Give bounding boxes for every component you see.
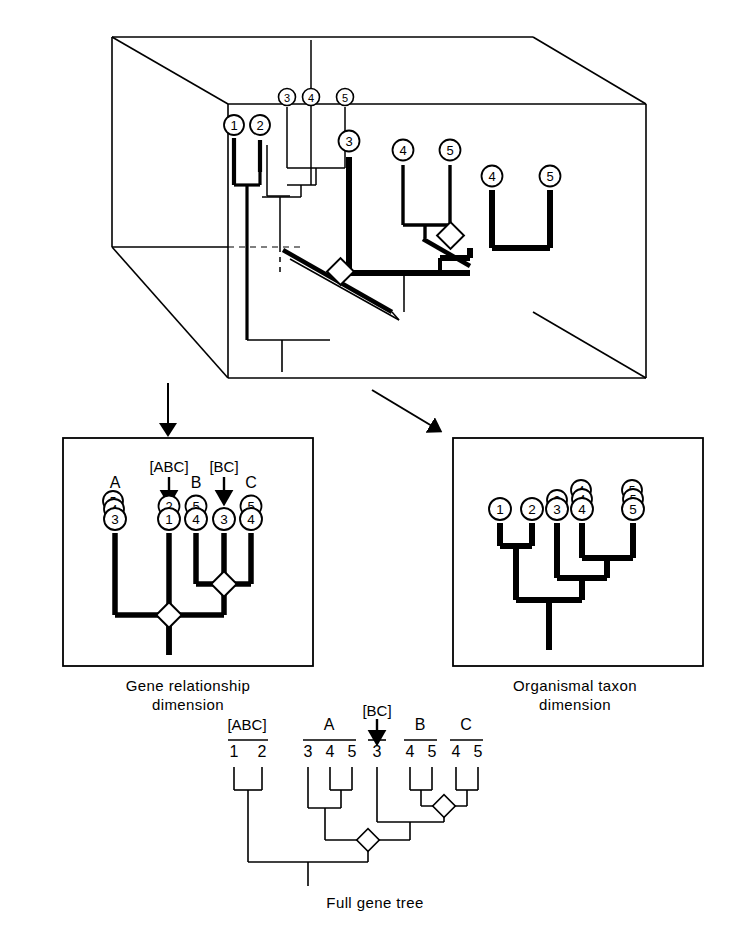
svg-text:4: 4 xyxy=(192,512,200,527)
cube-duplication-connectors xyxy=(283,239,470,320)
left-panel-tip-letter-a: A xyxy=(110,474,121,491)
organismal-taxon-panel-frame xyxy=(453,438,703,666)
cube-tip-badge-4-thick: 4 xyxy=(482,166,503,187)
bottom-leaf-numerals: 1 2 3 4 5 3 4 5 4 5 xyxy=(230,743,483,760)
svg-text:5: 5 xyxy=(348,743,357,760)
left-panel-tip-stack-c: 5 4 xyxy=(240,496,262,531)
left-panel-tip-stack-b: 5 4 xyxy=(185,496,207,531)
cube-tip-badge-1: 1 xyxy=(224,115,244,135)
svg-text:4: 4 xyxy=(326,743,335,760)
cube-tip-badge-4-thin: 4 xyxy=(393,140,414,161)
arrow-to-organismal-taxon-panel xyxy=(372,390,432,426)
svg-text:3: 3 xyxy=(304,743,313,760)
cube-tip-badge-3: 3 xyxy=(339,131,360,152)
svg-text:3: 3 xyxy=(373,743,382,760)
cube-tip-badge-5-back: 5 xyxy=(337,89,354,106)
gene-relationship-caption: Gene relationship dimension xyxy=(48,676,328,714)
left-panel-tip-letter-c: C xyxy=(245,474,257,491)
svg-text:5: 5 xyxy=(446,143,453,158)
svg-text:4: 4 xyxy=(247,512,255,527)
bottom-group-label-c: C xyxy=(460,716,472,733)
cube-outline xyxy=(112,37,646,378)
figure-root: 3 4 5 1 2 3 4 5 xyxy=(0,0,745,931)
svg-text:5: 5 xyxy=(342,92,348,104)
cube-tip-badge-2: 2 xyxy=(250,115,270,135)
cube-tip-badge-5-thin: 5 xyxy=(440,140,461,161)
full-gene-tree-duplication-node-bc xyxy=(433,795,456,818)
organismal-tip-stack-2: 2 xyxy=(521,498,543,520)
bottom-group-label-bc: [BC] xyxy=(362,702,391,719)
svg-text:5: 5 xyxy=(629,502,637,517)
bottom-group-label-abc: [ABC] xyxy=(227,716,266,733)
cube-tip-badge-4-back: 4 xyxy=(303,89,320,106)
full-gene-tree-caption: Full gene tree xyxy=(245,893,505,912)
left-panel-tip-stack-bc: 3 xyxy=(213,508,235,530)
figure-canvas: 3 4 5 1 2 3 4 5 xyxy=(0,0,745,931)
svg-text:3: 3 xyxy=(111,512,119,527)
full-gene-tree xyxy=(234,767,478,886)
left-panel-label-bc: [BC] xyxy=(209,458,238,475)
svg-text:3: 3 xyxy=(553,502,561,517)
svg-text:4: 4 xyxy=(578,502,586,517)
svg-text:1: 1 xyxy=(496,502,504,517)
left-panel-tip-stack-abc: 2 1 xyxy=(158,496,180,531)
svg-text:1: 1 xyxy=(230,118,237,133)
svg-text:1: 1 xyxy=(230,743,239,760)
organismal-tip-stack-3: 3 3 xyxy=(546,490,568,520)
svg-text:2: 2 xyxy=(256,118,263,133)
organismal-tip-stack-1: 1 xyxy=(489,498,511,520)
svg-text:5: 5 xyxy=(546,169,553,184)
organismal-tip-stack-4: 4 4 4 xyxy=(571,480,593,520)
full-gene-tree-duplication-node-abc xyxy=(357,829,380,852)
svg-text:4: 4 xyxy=(308,92,314,104)
cube-back-plane-tree xyxy=(262,40,345,272)
bottom-group-label-a: A xyxy=(324,716,335,733)
svg-text:4: 4 xyxy=(406,743,415,760)
svg-text:5: 5 xyxy=(428,743,437,760)
cube-tip-badge-3-back: 3 xyxy=(279,89,296,106)
svg-text:5: 5 xyxy=(474,743,483,760)
svg-text:2: 2 xyxy=(258,743,267,760)
svg-text:3: 3 xyxy=(220,512,228,527)
svg-text:1: 1 xyxy=(165,512,173,527)
organismal-taxon-caption: Organismal taxon dimension xyxy=(430,676,720,714)
svg-text:2: 2 xyxy=(528,502,536,517)
cube-tip-badge-5-thick: 5 xyxy=(540,166,561,187)
svg-text:3: 3 xyxy=(345,134,352,149)
svg-text:3: 3 xyxy=(284,92,290,104)
svg-text:4: 4 xyxy=(452,743,461,760)
bottom-group-label-b: B xyxy=(415,716,426,733)
svg-text:4: 4 xyxy=(399,143,406,158)
organismal-tip-stack-5: 5 5 5 xyxy=(622,480,644,520)
left-panel-tip-stack-a: 5 4 3 xyxy=(103,491,126,530)
left-panel-tip-letter-b: B xyxy=(191,474,202,491)
left-panel-label-abc: [ABC] xyxy=(149,458,188,475)
svg-text:4: 4 xyxy=(488,169,495,184)
